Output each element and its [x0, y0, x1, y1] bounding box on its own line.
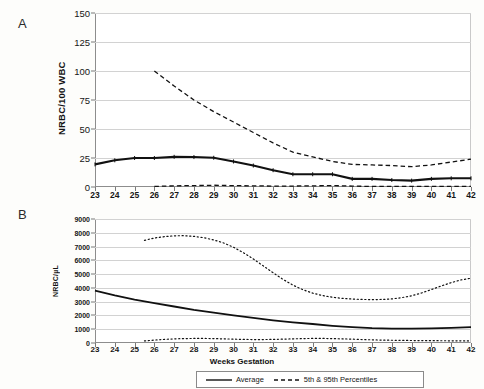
y-axis-tick-label: 50: [79, 124, 95, 135]
dashed-line-icon: [274, 376, 300, 384]
panel-a-y-axis-label: NRBC/100 WBC: [56, 42, 67, 154]
x-axis-tick-label: 35: [328, 345, 337, 354]
x-axis-tick-label: 37: [368, 345, 377, 354]
x-axis-tick-label: 29: [209, 190, 218, 200]
x-axis-tick-label: 28: [189, 190, 198, 200]
series-layer: [95, 13, 471, 187]
series-line: [154, 185, 471, 186]
x-axis-tick-label: 36: [348, 345, 357, 354]
x-axis-tick-label: 32: [269, 345, 278, 354]
y-axis-tick-label: 3000: [74, 298, 95, 305]
x-axis-tick-label: 27: [169, 190, 178, 200]
x-axis-tick-label: 35: [328, 190, 337, 200]
x-axis-tick-label: 38: [387, 190, 396, 200]
y-axis-tick-label: 150: [74, 8, 95, 19]
x-axis-tick-label: 39: [407, 190, 416, 200]
x-axis-tick-label: 31: [249, 190, 258, 200]
series-line: [154, 71, 471, 167]
x-axis-tick-label: 37: [367, 190, 376, 200]
x-axis-tick-label: 30: [229, 190, 238, 200]
solid-line-icon: [206, 376, 232, 384]
x-axis-tick-label: 27: [170, 345, 179, 354]
x-axis-tick-label: 41: [447, 345, 456, 354]
x-axis-title: Weeks Gestation: [0, 357, 484, 366]
y-axis-tick-label: 9000: [74, 216, 95, 223]
legend-entry-percentiles: 5th & 95th Percentiles: [274, 375, 377, 384]
chart-legend: Average 5th & 95th Percentiles: [196, 371, 424, 388]
x-axis-tick-label: 25: [130, 190, 139, 200]
x-axis-tick-label: 36: [348, 190, 357, 200]
x-axis-tick-label: 24: [110, 345, 119, 354]
legend-entry-average: Average: [206, 375, 264, 384]
x-axis-tick-label: 31: [249, 345, 258, 354]
x-axis-tick-label: 28: [189, 345, 198, 354]
x-axis-tick-label: 39: [407, 345, 416, 354]
x-axis-tick-label: 23: [91, 345, 100, 354]
y-axis-tick-label: 125: [74, 37, 95, 48]
series-layer: [95, 219, 471, 343]
panel-b-y-axis-label: NRBC/µL: [52, 253, 59, 309]
x-axis-tick-label: 23: [90, 190, 99, 200]
x-axis-tick-label: 40: [427, 345, 436, 354]
x-axis-tick-label: 41: [446, 190, 455, 200]
figure-container: A NRBC/100 WBC 0255075100125150232425262…: [0, 0, 484, 389]
x-axis-tick-label: 25: [130, 345, 139, 354]
series-line: [95, 157, 471, 181]
panel-a-plot-area: 0255075100125150232425262728293031323334…: [95, 13, 471, 187]
panel-b-letter: B: [18, 207, 27, 222]
x-axis-tick-label: 40: [427, 190, 436, 200]
x-axis-tick-label: 33: [288, 345, 297, 354]
x-axis-tick-label: 38: [387, 345, 396, 354]
series-line: [144, 236, 471, 300]
x-axis-tick-label: 29: [209, 345, 218, 354]
x-axis-tick-label: 26: [150, 190, 159, 200]
y-axis-tick-label: 25: [79, 153, 95, 164]
x-axis-tick-label: 30: [229, 345, 238, 354]
y-axis-tick-label: 2000: [74, 312, 95, 319]
panel-b-plot-area: 0100020003000400050006000700080009000232…: [95, 219, 471, 343]
x-axis-tick-label: 24: [110, 190, 119, 200]
y-axis-tick-label: 6000: [74, 257, 95, 264]
x-axis-tick-label: 32: [268, 190, 277, 200]
series-line: [144, 338, 471, 340]
x-axis-tick-label: 34: [308, 190, 317, 200]
y-axis-tick-label: 75: [79, 95, 95, 106]
panel-a-letter: A: [18, 16, 27, 31]
x-axis-tick-label: 42: [466, 190, 475, 200]
legend-label-percentiles: 5th & 95th Percentiles: [304, 375, 377, 384]
panel-a: A NRBC/100 WBC 0255075100125150232425262…: [0, 0, 484, 212]
x-axis-tick-label: 34: [308, 345, 317, 354]
x-axis-tick-label: 42: [467, 345, 476, 354]
y-axis-tick-label: 7000: [74, 243, 95, 250]
x-axis-tick-label: 33: [288, 190, 297, 200]
y-axis-tick-label: 5000: [74, 271, 95, 278]
x-axis-tick-label: 26: [150, 345, 159, 354]
panel-b: B NRBC/µL 010002000300040005000600070008…: [0, 205, 484, 389]
y-axis-tick-label: 100: [74, 66, 95, 77]
legend-label-average: Average: [236, 375, 264, 384]
y-axis-tick-label: 8000: [74, 229, 95, 236]
y-axis-tick-label: 1000: [74, 326, 95, 333]
y-axis-tick-label: 4000: [74, 284, 95, 291]
series-line: [95, 291, 471, 329]
